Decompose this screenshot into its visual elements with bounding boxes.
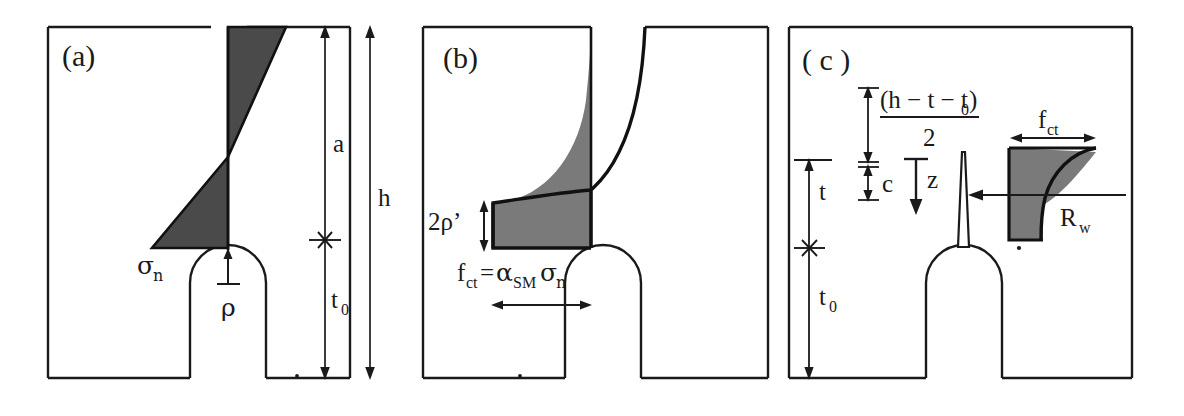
panel-a-drawing: (a) σ n ρ a h t 0 [0, 0, 395, 416]
label-dim-c: c [882, 170, 893, 197]
eq-fct-sub: ct [466, 274, 478, 291]
label-dim-z: z [927, 166, 938, 193]
eq-alpha-sub: SM [513, 274, 536, 291]
panel-c: ( c ) (h − t − t 0 ) 2 c z t t 0 f ct R … [780, 0, 1184, 416]
label-dim-t: t [819, 178, 826, 205]
fraction-numerator-sub: 0 [961, 101, 969, 118]
fraction-h-minus-t-t0-over-2: (h − t − t 0 ) 2 [880, 86, 979, 151]
label-dim-h: h [378, 184, 391, 211]
dimension-h [365, 25, 375, 380]
label-dim-t0-c-sub: 0 [829, 298, 837, 315]
fraction-denominator: 2 [923, 124, 936, 151]
label-dim-t0: t [331, 286, 338, 313]
eq-alpha: α [496, 258, 513, 287]
dimension-t0-c [794, 240, 825, 380]
label-rw: R [1060, 204, 1077, 231]
label-sigma-n: σ [137, 251, 154, 280]
panel-a-label: (a) [62, 39, 95, 73]
baseline-dot-b [518, 374, 522, 378]
specimen-outline-b [423, 27, 768, 378]
panel-b: (b) 2ρ’ f ct = α SM σ n [395, 0, 780, 416]
eq-equals: = [480, 259, 494, 286]
dimension-t [794, 158, 832, 240]
panel-c-label: ( c ) [802, 43, 850, 77]
panel-a: (a) σ n ρ a h t 0 [0, 0, 395, 416]
panel-b-drawing: (b) 2ρ’ f ct = α SM σ n [395, 0, 780, 416]
figure-container: (a) σ n ρ a h t 0 [0, 0, 1184, 416]
dimension-c [858, 164, 879, 202]
dimension-rho [217, 248, 240, 284]
label-dim-a: a [333, 130, 344, 157]
label-dim-t0-c: t [819, 283, 826, 310]
label-fct-equation: f ct = α SM σ n [457, 258, 566, 292]
dimension-a-t0 [309, 25, 341, 380]
dimension-fct-b [491, 300, 592, 309]
baseline-dot-a [295, 374, 299, 378]
label-two-rho-prime: 2ρ’ [428, 208, 461, 235]
dimension-h-minus-t-t0 [858, 86, 879, 164]
panel-c-drawing: ( c ) (h − t − t 0 ) 2 c z t t 0 f ct R … [780, 0, 1184, 416]
reference-dot-c [1017, 246, 1021, 250]
eq-sigma: σ [540, 258, 557, 287]
fraction-numerator-close: ) [969, 86, 977, 114]
label-fct-c: f [1038, 106, 1047, 133]
fraction-numerator: (h − t − t [880, 86, 968, 114]
label-rw-sub: w [1079, 219, 1091, 236]
panel-b-label: (b) [443, 41, 478, 75]
label-sigma-n-sub: n [153, 266, 163, 285]
stress-distribution-a [152, 27, 286, 250]
dimension-two-rho-prime [480, 200, 489, 252]
eq-fct: f [457, 259, 466, 286]
label-rho: ρ [221, 293, 236, 322]
label-fct-c-sub: ct [1047, 121, 1059, 138]
dimension-z [904, 159, 928, 215]
label-dim-t0-sub: 0 [341, 301, 349, 318]
eq-sigma-sub: n [556, 273, 566, 292]
stress-distribution-b [493, 27, 645, 248]
crack-c [958, 152, 969, 247]
